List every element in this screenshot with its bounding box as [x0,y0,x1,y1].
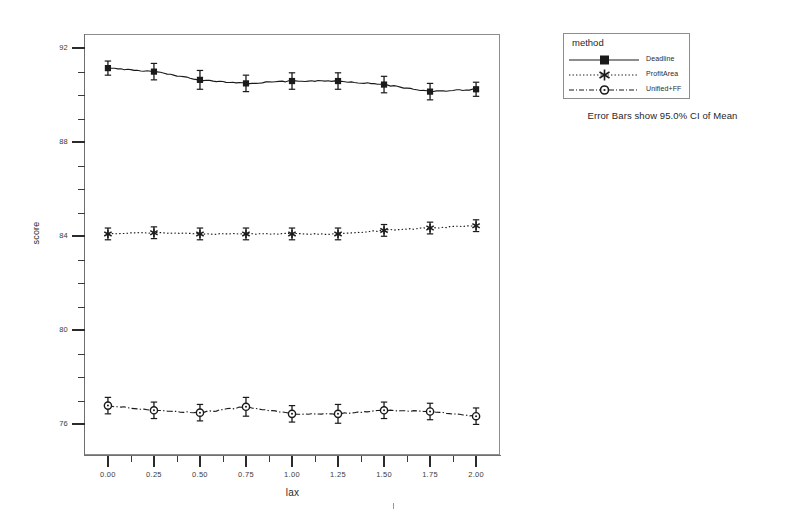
x-tick-label: 2.00 [468,470,484,479]
y-tick-minor [78,354,85,355]
x-tick-minor [269,456,270,462]
chart-figure: 9288848076 0.000.250.500.751.001.251.501… [0,0,793,516]
x-tick-label: 1.75 [422,470,438,479]
y-tick-major [72,423,85,425]
x-tick-label: 1.25 [330,470,346,479]
x-tick-minor [131,456,132,462]
x-tick-minor [361,456,362,462]
y-tick-minor [78,260,85,261]
plot-area [84,34,500,455]
x-tick-minor [177,456,178,462]
legend-title: method [572,37,604,48]
y-tick-label-text: 88 [32,137,68,146]
x-tick-major [429,456,431,467]
y-tick-minor [78,95,85,96]
x-tick-label: 1.50 [376,470,392,479]
legend: method Deadline ProfitArea [563,33,690,99]
y-tick-label-text: 92 [32,43,68,52]
y-tick-minor [78,72,85,73]
legend-label-unified-ff: Unified+FF [646,85,681,92]
x-tick-label: 1.00 [284,470,300,479]
y-tick-minor [78,377,85,378]
y-tick-major [72,329,85,331]
y-tick-label-text: 76 [32,419,68,428]
legend-item-deadline[interactable]: Deadline [567,53,689,67]
legend-sample-profitarea [567,68,641,82]
y-axis-line [84,34,85,456]
x-tick-label: 0.00 [100,470,116,479]
x-tick-minor [407,456,408,462]
x-tick-major [337,456,339,467]
x-tick-label: 0.50 [192,470,208,479]
y-tick-minor [78,401,85,402]
x-tick-label: 0.75 [238,470,254,479]
y-tick-major [72,141,85,143]
x-tick-major [153,456,155,467]
page-edge-mark [393,503,394,509]
x-tick-major [291,456,293,467]
y-tick-minor [78,166,85,167]
y-tick-minor [78,213,85,214]
x-tick-minor [453,456,454,462]
x-tick-minor [223,456,224,462]
y-tick-label-text: 80 [32,325,68,334]
x-tick-major [107,456,109,467]
legend-item-profitarea[interactable]: ProfitArea [567,68,689,82]
x-tick-minor [315,456,316,462]
legend-sample-deadline [567,53,641,67]
legend-label-profitarea: ProfitArea [646,70,678,77]
x-axis-title: lax [84,487,501,498]
legend-item-unified-ff[interactable]: Unified+FF [567,83,689,97]
y-tick-minor [78,189,85,190]
y-tick-minor [78,119,85,120]
y-tick-major [72,235,85,237]
y-tick-minor [78,283,85,284]
legend-sample-unified-ff [567,83,641,97]
x-tick-major [245,456,247,467]
y-tick-major [72,47,85,49]
x-tick-major [199,456,201,467]
y-tick-minor [78,307,85,308]
x-tick-major [383,456,385,467]
x-tick-major [475,456,477,467]
x-tick-label: 0.25 [146,470,162,479]
error-bars-note: Error Bars show 95.0% CI of Mean [540,110,785,121]
y-axis-title: score [31,193,41,273]
legend-label-deadline: Deadline [646,55,674,62]
